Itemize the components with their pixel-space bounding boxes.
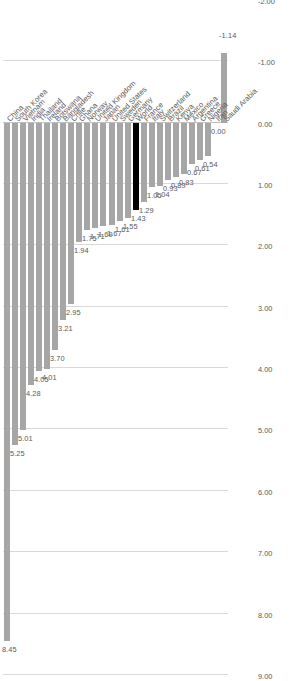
value-label-germany: 1.55 <box>123 222 138 231</box>
axis-tick-neg2-00: -2.00 <box>258 0 275 6</box>
axis-tick-4neg00: 4.00 <box>258 365 272 374</box>
value-label-ireland: 4.01 <box>42 373 57 382</box>
bar-thailand <box>36 123 42 372</box>
bar-nigeria <box>205 123 211 156</box>
value-label-india: 4.28 <box>26 389 41 398</box>
bar-chile <box>68 123 74 304</box>
bar-united-states <box>109 123 115 226</box>
value-label-bangladesh: 3.21 <box>58 324 73 333</box>
value-label-vietnam: 5.01 <box>18 434 33 443</box>
bar-china <box>4 123 10 642</box>
bar-botswana <box>52 123 58 350</box>
axis-tick-8neg00: 8.00 <box>258 611 272 620</box>
bar-south-korea <box>12 123 18 445</box>
axis-tick-7neg00: 7.00 <box>258 549 272 558</box>
axis-labels: ChinaSouth KoreaVietnamIndiaThailandIrel… <box>228 0 291 675</box>
value-label-iran: 0.00 <box>211 127 226 136</box>
bar-brazil <box>165 123 171 180</box>
bar-argentina <box>189 123 195 164</box>
bar-world <box>133 123 139 211</box>
value-label-ghana: 1.94 <box>74 246 89 255</box>
bar-kenya <box>173 123 179 178</box>
bar-united-kingdom <box>92 123 98 228</box>
bar-india <box>28 123 34 386</box>
axis-tick-neg1-00: -1.00 <box>258 58 275 67</box>
axis-tick-5neg00: 5.00 <box>258 427 272 436</box>
value-label-botswana: 3.70 <box>50 354 65 363</box>
bar-bangladesh <box>60 123 66 320</box>
value-label-nigeria: 0.54 <box>203 160 218 169</box>
value-label-world: 1.43 <box>131 215 146 224</box>
value-label-mexico: 0.83 <box>179 178 194 187</box>
bar-italy <box>149 123 155 187</box>
bar-sweden <box>117 123 123 222</box>
axis-tick-0neg00: 0.00 <box>258 120 272 129</box>
value-label-france: 1.29 <box>139 206 154 215</box>
bar-japan <box>100 123 106 227</box>
axis-tick-3neg00: 3.00 <box>258 304 272 313</box>
axis-tick-2neg00: 2.00 <box>258 243 272 252</box>
bar-ireland <box>44 123 50 369</box>
bar-switzerland <box>157 123 163 187</box>
value-label-china: 8.45 <box>2 645 17 654</box>
axis-tick-6neg00: 6.00 <box>258 488 272 497</box>
axis-tick-9neg00: 9.00 <box>258 672 272 681</box>
value-label-south-korea: 5.25 <box>10 449 25 458</box>
bar-greece <box>197 123 203 160</box>
value-label-chile: 2.95 <box>66 308 81 317</box>
bar-ghana <box>76 123 82 242</box>
axis-tick-1neg00: 1.00 <box>258 181 272 190</box>
bar-vietnam <box>20 123 26 430</box>
bar-mexico <box>181 123 187 174</box>
bar-germany <box>125 123 131 218</box>
bar-norway <box>84 123 90 230</box>
bar-france <box>141 123 147 202</box>
